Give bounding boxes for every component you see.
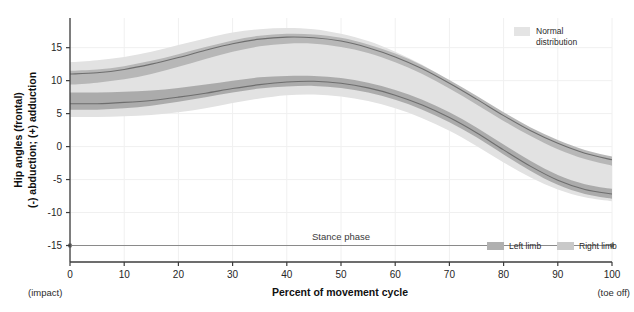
legend-swatch-normal	[514, 27, 530, 36]
x-tick-label: 80	[498, 269, 510, 280]
y-tick-label: 15	[51, 42, 63, 53]
x-tick-label: 90	[552, 269, 564, 280]
legend-swatch-left-limb	[487, 242, 504, 250]
x-tick-label: 70	[444, 269, 456, 280]
x-tick-label: 10	[119, 269, 131, 280]
x-tick-label: 20	[173, 269, 185, 280]
y-tick-label: -5	[53, 174, 62, 185]
y-tick-label: -15	[48, 240, 63, 251]
legend-label-normal-line1: Normal	[536, 26, 564, 36]
x-end-note: (toe off)	[597, 287, 630, 298]
x-axis-title: Percent of movement cycle	[272, 286, 408, 298]
legend-label-right-limb: Right limb	[579, 241, 617, 251]
legend-left-limb: Left limb	[487, 241, 541, 251]
x-tick-label: 40	[281, 269, 293, 280]
legend-swatch-right-limb	[557, 242, 574, 250]
y-axis-title-line2: (-) abduction; (+) adduction	[26, 72, 38, 208]
hip-angle-chart: 0102030405060708090100 151050-5-10-15 Pe…	[0, 0, 634, 312]
legend-label-normal-line2: distribution	[536, 37, 577, 47]
x-tick-label: 100	[604, 269, 621, 280]
y-tick-label: 5	[56, 108, 62, 119]
chart-plot-svg: 0102030405060708090100 151050-5-10-15 Pe…	[0, 0, 634, 312]
y-tick-label: 10	[51, 75, 63, 86]
x-tick-label: 50	[335, 269, 347, 280]
y-tick-label: 0	[56, 141, 62, 152]
stance-phase-label: Stance phase	[312, 231, 370, 242]
legend-label-left-limb: Left limb	[509, 241, 541, 251]
legend-right-limb: Right limb	[557, 241, 617, 251]
y-axis-title-line1: Hip angles (frontal)	[12, 92, 24, 188]
x-start-note: (impact)	[28, 287, 62, 298]
x-tick-label: 0	[67, 269, 73, 280]
y-tick-label: -10	[48, 207, 63, 218]
x-tick-label: 60	[390, 269, 402, 280]
x-tick-label: 30	[227, 269, 239, 280]
